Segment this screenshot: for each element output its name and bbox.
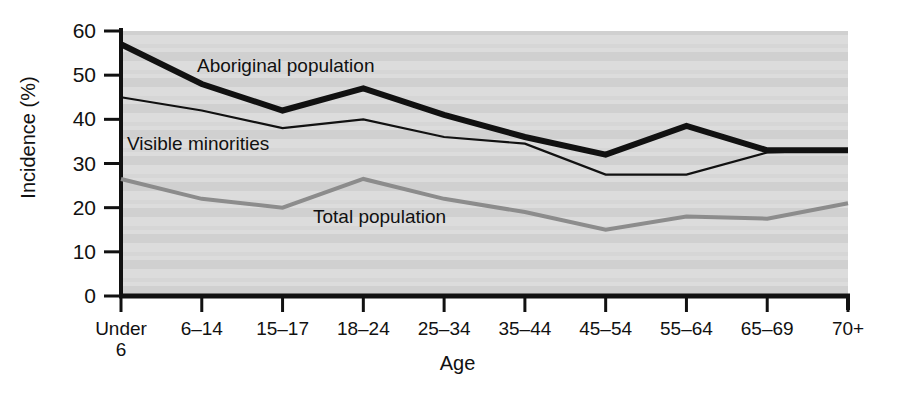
series-annotation-label: Aboriginal population [197,55,374,77]
y-tick-label: 40 [50,108,96,129]
y-tick-label: 60 [50,20,96,41]
y-axis-title: Incidence (%) [17,48,40,228]
y-tick-label: 10 [50,241,96,262]
y-tick-label: 0 [50,285,96,306]
y-tick-label: 20 [50,197,96,218]
y-tick-label: 50 [50,64,96,85]
series-annotation-label: Total population [313,206,446,228]
x-axis-title: Age [0,352,915,375]
series-annotation-label: Visible minorities [127,133,269,155]
y-axis-ticks [104,31,121,296]
y-tick-label: 30 [50,153,96,174]
chart-figure: 0102030405060 Under 66–1415–1718–2425–34… [0,0,915,395]
x-tick-label: 70+ [800,318,896,339]
